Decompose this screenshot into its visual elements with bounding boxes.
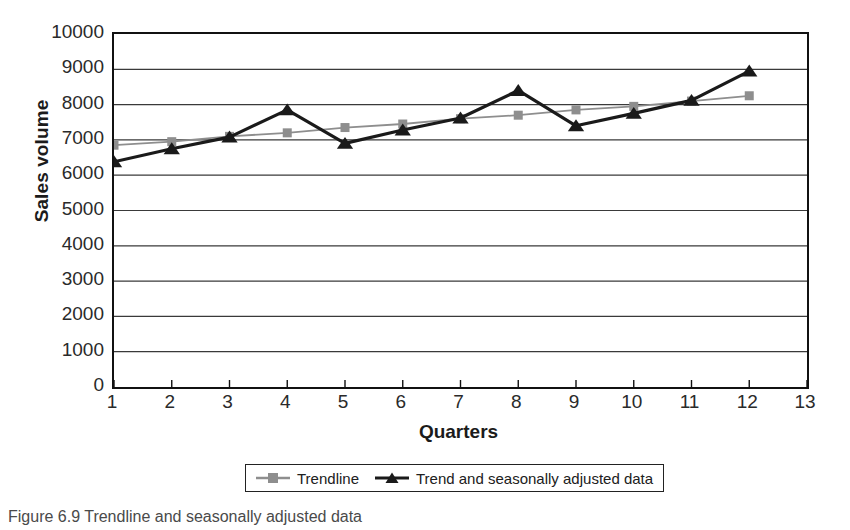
figure-caption: Figure 6.9 Trendline and seasonally adju… — [8, 508, 362, 526]
series-seasonally-adjusted — [114, 65, 757, 168]
x-tick-label: 11 — [670, 392, 710, 411]
data-point-marker-square — [745, 91, 754, 100]
legend-label-trendline: Trendline — [297, 471, 359, 486]
x-axis-tick-labels: 12345678910111213 — [0, 392, 850, 420]
x-tick-label: 4 — [265, 392, 305, 411]
x-tick-label: 3 — [208, 392, 248, 411]
y-axis-tick-labels: 0100020003000400050006000700080009000100… — [28, 0, 104, 530]
data-point-marker-square — [572, 105, 581, 114]
legend-marker-triangle-icon — [375, 471, 409, 485]
y-tick-label: 2000 — [28, 304, 104, 323]
y-tick-label: 8000 — [28, 93, 104, 112]
legend-entry-seasonally-adjusted: Trend and seasonally adjusted data — [375, 471, 653, 486]
y-tick-label: 5000 — [28, 199, 104, 218]
y-tick-label: 6000 — [28, 163, 104, 182]
legend-entry-trendline: Trendline — [256, 471, 359, 486]
legend-marker-square-icon — [256, 471, 290, 485]
x-axis-title: Quarters — [112, 421, 805, 443]
x-tick-label: 2 — [150, 392, 190, 411]
x-tick-label: 8 — [496, 392, 536, 411]
y-tick-label: 1000 — [28, 340, 104, 359]
y-tick-label: 10000 — [28, 22, 104, 41]
data-point-marker-square — [514, 111, 523, 120]
y-tick-label: 9000 — [28, 57, 104, 76]
x-tick-label: 13 — [785, 392, 825, 411]
x-tick-label: 12 — [727, 392, 767, 411]
series-line — [114, 96, 749, 145]
y-tick-label: 3000 — [28, 269, 104, 288]
data-point-marker-square — [341, 123, 350, 132]
data-point-marker-triangle — [279, 103, 295, 115]
x-tick-label: 7 — [439, 392, 479, 411]
data-point-marker-triangle — [741, 65, 757, 77]
figure-container: Sales volume 010002000300040005000600070… — [0, 0, 850, 530]
chart-canvas — [114, 34, 807, 387]
x-tick-label: 5 — [323, 392, 363, 411]
x-tick-label: 6 — [381, 392, 421, 411]
data-point-marker-square — [283, 128, 292, 137]
data-point-marker-triangle — [510, 84, 526, 96]
plot-area — [112, 32, 809, 389]
y-tick-label: 7000 — [28, 128, 104, 147]
legend-label-seasonally-adjusted: Trend and seasonally adjusted data — [416, 471, 653, 486]
chart-legend: Trendline Trend and seasonally adjusted … — [245, 464, 664, 492]
x-tick-label: 9 — [554, 392, 594, 411]
data-point-marker-square — [114, 141, 119, 150]
x-tick-label: 10 — [612, 392, 652, 411]
series-line — [114, 71, 749, 162]
y-tick-label: 4000 — [28, 234, 104, 253]
x-tick-label: 1 — [92, 392, 132, 411]
